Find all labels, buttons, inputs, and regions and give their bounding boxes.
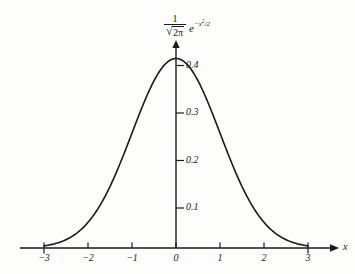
x-tick-label--3: −3 (38, 252, 50, 263)
radical-sign: √ (166, 25, 173, 37)
x-tick-label-1: 1 (218, 252, 223, 263)
normal-distribution-figure: 1 √ 2π e−x2/2 −3 −2 −1 0 1 2 3 0.4 0.3 0… (0, 0, 355, 274)
y-tick-label-0p2: 0.2 (186, 154, 199, 165)
y-axis-ticks (176, 66, 184, 209)
x-axis-arrowhead (330, 244, 339, 251)
exp-exponent-tail: /2 (205, 20, 210, 28)
x-tick-label-0: 0 (174, 252, 179, 263)
x-tick-label-2: 2 (262, 252, 267, 263)
exp-exponent: −x2/2 (194, 20, 210, 28)
fraction-denominator: √ 2π (164, 25, 186, 39)
exponential-term: e−x2/2 (189, 20, 210, 34)
x-tick-label--2: −2 (82, 252, 94, 263)
x-tick-label-3: 3 (306, 252, 311, 263)
y-tick-label-0p1: 0.1 (186, 201, 199, 212)
exp-exponent-head: −x (194, 20, 202, 28)
y-tick-label-0p3: 0.3 (186, 106, 199, 117)
square-root-icon: √ 2π (166, 26, 184, 39)
y-tick-label-0p4: 0.4 (186, 59, 199, 70)
x-tick-label--1: −1 (126, 252, 138, 263)
radicand: 2π (172, 26, 184, 39)
x-axis-label: x (343, 241, 347, 252)
fraction-one-over-sqrt-two-pi: 1 √ 2π (164, 14, 186, 39)
fraction-numerator: 1 (170, 14, 181, 25)
density-formula: 1 √ 2π e−x2/2 (137, 9, 237, 43)
